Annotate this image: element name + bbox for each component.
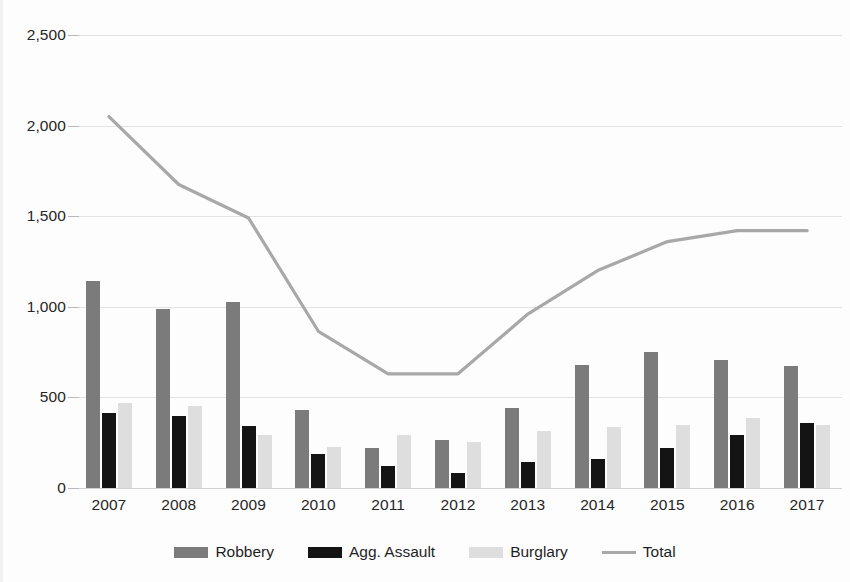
bar-group bbox=[144, 35, 214, 488]
y-axis-tick-label: 500 bbox=[0, 390, 66, 406]
x-axis-tick-label: 2007 bbox=[74, 492, 144, 518]
bar-burglary-2007 bbox=[118, 403, 132, 488]
bar-group bbox=[563, 35, 633, 488]
legend-item-label: Burglary bbox=[510, 544, 568, 560]
chart-legend: RobberyAgg. AssaultBurglaryTotal bbox=[0, 537, 850, 567]
bar-robbery-2014 bbox=[575, 365, 589, 488]
bar-group bbox=[214, 35, 284, 488]
y-axis-tick-mark bbox=[68, 307, 79, 308]
y-axis-tick-mark bbox=[68, 126, 79, 127]
bar-assault-2016 bbox=[730, 435, 744, 488]
bar-group bbox=[633, 35, 703, 488]
legend-item[interactable]: Robbery bbox=[174, 544, 274, 560]
bar-assault-2010 bbox=[311, 454, 325, 488]
bar-assault-2013 bbox=[521, 462, 535, 488]
bar-burglary-2017 bbox=[816, 425, 830, 488]
x-axis-tick-label: 2010 bbox=[283, 492, 353, 518]
bar-robbery-2010 bbox=[295, 410, 309, 488]
bar-robbery-2015 bbox=[644, 352, 658, 488]
bar-assault-2017 bbox=[800, 423, 814, 488]
bar-burglary-2010 bbox=[327, 447, 341, 488]
x-axis-tick-label: 2009 bbox=[214, 492, 284, 518]
bar-robbery-2017 bbox=[784, 366, 798, 488]
legend-item-label: Total bbox=[643, 544, 676, 560]
y-axis-tick-label: 1,500 bbox=[0, 208, 66, 224]
square-swatch-icon bbox=[308, 547, 342, 558]
y-axis-tick-mark bbox=[68, 216, 79, 217]
y-axis-tick-label: 2,500 bbox=[0, 27, 66, 43]
bar-robbery-2013 bbox=[505, 408, 519, 488]
bars-layer bbox=[74, 35, 842, 488]
bar-robbery-2009 bbox=[226, 302, 240, 488]
bar-group bbox=[493, 35, 563, 488]
bar-assault-2009 bbox=[242, 426, 256, 488]
x-axis-tick-label: 2012 bbox=[423, 492, 493, 518]
bar-assault-2015 bbox=[660, 448, 674, 488]
bar-group bbox=[702, 35, 772, 488]
y-axis-tick-mark bbox=[68, 397, 79, 398]
bar-burglary-2008 bbox=[188, 406, 202, 488]
bar-burglary-2014 bbox=[607, 427, 621, 488]
x-axis-tick-label: 2008 bbox=[144, 492, 214, 518]
bar-assault-2011 bbox=[381, 466, 395, 488]
bar-burglary-2015 bbox=[676, 425, 690, 488]
bar-assault-2014 bbox=[591, 459, 605, 488]
y-axis: 05001,0001,5002,0002,500 bbox=[0, 35, 66, 488]
x-axis-tick-label: 2015 bbox=[633, 492, 703, 518]
bar-assault-2007 bbox=[102, 413, 116, 488]
x-axis-tick-label: 2013 bbox=[493, 492, 563, 518]
bar-assault-2008 bbox=[172, 416, 186, 488]
x-axis-tick-label: 2017 bbox=[772, 492, 842, 518]
y-axis-tick-label: 2,000 bbox=[0, 118, 66, 134]
bar-robbery-2008 bbox=[156, 309, 170, 488]
legend-item[interactable]: Burglary bbox=[469, 544, 568, 560]
bar-robbery-2011 bbox=[365, 448, 379, 488]
legend-item-label: Agg. Assault bbox=[349, 544, 435, 560]
x-axis-tick-label: 2016 bbox=[702, 492, 772, 518]
x-axis-tick-label: 2011 bbox=[353, 492, 423, 518]
x-axis: 2007200820092010201120122013201420152016… bbox=[74, 492, 842, 518]
line-swatch-icon bbox=[602, 551, 636, 554]
legend-item-label: Robbery bbox=[215, 544, 274, 560]
square-swatch-icon bbox=[174, 547, 208, 558]
bar-group bbox=[283, 35, 353, 488]
bar-burglary-2011 bbox=[397, 435, 411, 488]
bar-group bbox=[74, 35, 144, 488]
legend-item[interactable]: Total bbox=[602, 544, 676, 560]
bar-robbery-2016 bbox=[714, 360, 728, 488]
bar-assault-2012 bbox=[451, 473, 465, 488]
bar-group bbox=[423, 35, 493, 488]
y-axis-tick-label: 1,000 bbox=[0, 299, 66, 315]
y-axis-tick-label: 0 bbox=[0, 480, 66, 496]
bar-burglary-2009 bbox=[258, 435, 272, 488]
gridline bbox=[74, 488, 842, 489]
crime-statistics-chart: 05001,0001,5002,0002,500 200720082009201… bbox=[0, 0, 850, 582]
legend-item[interactable]: Agg. Assault bbox=[308, 544, 435, 560]
square-swatch-icon bbox=[469, 547, 503, 558]
bar-robbery-2007 bbox=[86, 281, 100, 488]
bar-robbery-2012 bbox=[435, 440, 449, 488]
bar-burglary-2016 bbox=[746, 418, 760, 488]
y-axis-tick-mark bbox=[68, 488, 79, 489]
y-axis-tick-mark bbox=[68, 35, 79, 36]
bar-burglary-2012 bbox=[467, 442, 481, 488]
bar-group bbox=[353, 35, 423, 488]
plot-area bbox=[74, 35, 842, 488]
x-axis-tick-label: 2014 bbox=[563, 492, 633, 518]
bar-burglary-2013 bbox=[537, 431, 551, 488]
bar-group bbox=[772, 35, 842, 488]
